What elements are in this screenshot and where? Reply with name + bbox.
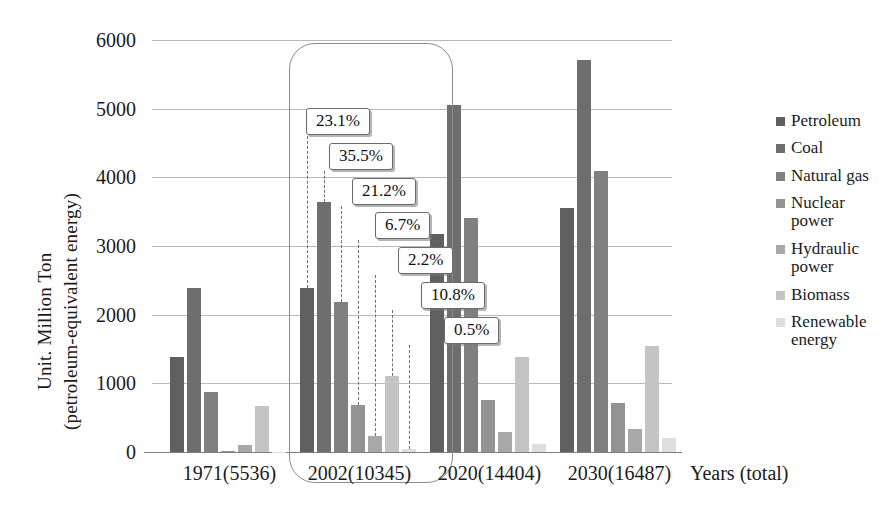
- callout-leader-line: [392, 310, 393, 376]
- bar: [594, 171, 608, 452]
- legend-item: Biomass: [776, 286, 888, 304]
- y-axis-tick-label: 2000: [58, 305, 136, 325]
- callout-leader-line: [341, 206, 342, 302]
- y-axis-tick-label: 3000: [58, 236, 136, 256]
- callout-leader-line: [375, 275, 376, 436]
- y-axis-tick-label: 0: [58, 442, 136, 462]
- callout-leader-line: [358, 240, 359, 405]
- bar: [385, 376, 399, 452]
- y-axis-tick-label: 5000: [58, 99, 136, 119]
- bar: [170, 357, 184, 452]
- callout-leader-line: [324, 171, 325, 202]
- bar-group: [300, 40, 419, 452]
- callout-leader-line: [307, 136, 308, 288]
- bar: [272, 452, 286, 453]
- bar: [351, 405, 365, 452]
- bar: [611, 403, 625, 452]
- legend-swatch-icon: [776, 291, 785, 300]
- legend: PetroleumCoalNatural gasNuclearpowerHydr…: [776, 112, 888, 359]
- legend-swatch-icon: [776, 199, 785, 208]
- share-callout: 35.5%: [329, 143, 393, 170]
- legend-item: Natural gas: [776, 167, 888, 185]
- legend-item: Coal: [776, 139, 888, 157]
- callout-leader-line: [409, 345, 410, 449]
- legend-item-label: Hydraulicpower: [791, 240, 859, 277]
- legend-swatch-icon: [776, 318, 785, 327]
- share-callout: 21.2%: [352, 178, 416, 205]
- bar: [221, 451, 235, 452]
- plot-area: [152, 40, 672, 452]
- bar: [204, 392, 218, 452]
- legend-item-label: Nuclearpower: [791, 194, 845, 231]
- legend-item: Hydraulicpower: [776, 240, 888, 277]
- legend-swatch-icon: [776, 245, 785, 254]
- y-axis-title-line-1: Unit. Million Ton: [34, 253, 56, 390]
- bar: [402, 449, 416, 452]
- x-axis-title: Years (total): [690, 462, 789, 485]
- share-callout: 6.7%: [375, 212, 430, 239]
- energy-bar-chart: Unit. Million Ton (petroleum-equivalent …: [0, 0, 891, 516]
- legend-item-label: Natural gas: [791, 167, 869, 185]
- bar: [628, 429, 642, 452]
- x-axis-line: [144, 452, 682, 453]
- share-callout: 10.8%: [421, 282, 485, 309]
- legend-item-label: Coal: [791, 139, 823, 157]
- bar: [515, 357, 529, 452]
- bar-group: [560, 40, 679, 452]
- bar: [334, 302, 348, 452]
- y-axis-tick-label: 1000: [58, 373, 136, 393]
- bar: [238, 445, 252, 452]
- bar: [447, 105, 461, 452]
- legend-swatch-icon: [776, 117, 785, 126]
- bar: [498, 432, 512, 452]
- share-callout: 2.2%: [398, 247, 453, 274]
- share-callout: 23.1%: [306, 108, 370, 135]
- bar: [577, 60, 591, 452]
- bar: [645, 346, 659, 452]
- bar-group: [170, 40, 289, 452]
- bar: [317, 202, 331, 452]
- legend-swatch-icon: [776, 172, 785, 181]
- legend-item-label: Petroleum: [791, 112, 861, 130]
- bar: [187, 288, 201, 452]
- y-axis-tick-label: 6000: [58, 30, 136, 50]
- bar: [662, 438, 676, 452]
- x-axis-tick-label: 2030(16487): [540, 462, 700, 485]
- bar: [255, 406, 269, 452]
- legend-item: Nuclearpower: [776, 194, 888, 231]
- bar: [481, 400, 495, 452]
- bar: [300, 288, 314, 452]
- bar-group: [430, 40, 549, 452]
- legend-item-label: Renewableenergy: [791, 313, 867, 350]
- legend-swatch-icon: [776, 144, 785, 153]
- legend-item-label: Biomass: [791, 286, 850, 304]
- share-callout: 0.5%: [444, 317, 499, 344]
- bar: [368, 436, 382, 452]
- y-axis-tick-label: 4000: [58, 167, 136, 187]
- legend-item: Renewableenergy: [776, 313, 888, 350]
- bar: [532, 444, 546, 452]
- bar: [560, 208, 574, 452]
- legend-item: Petroleum: [776, 112, 888, 130]
